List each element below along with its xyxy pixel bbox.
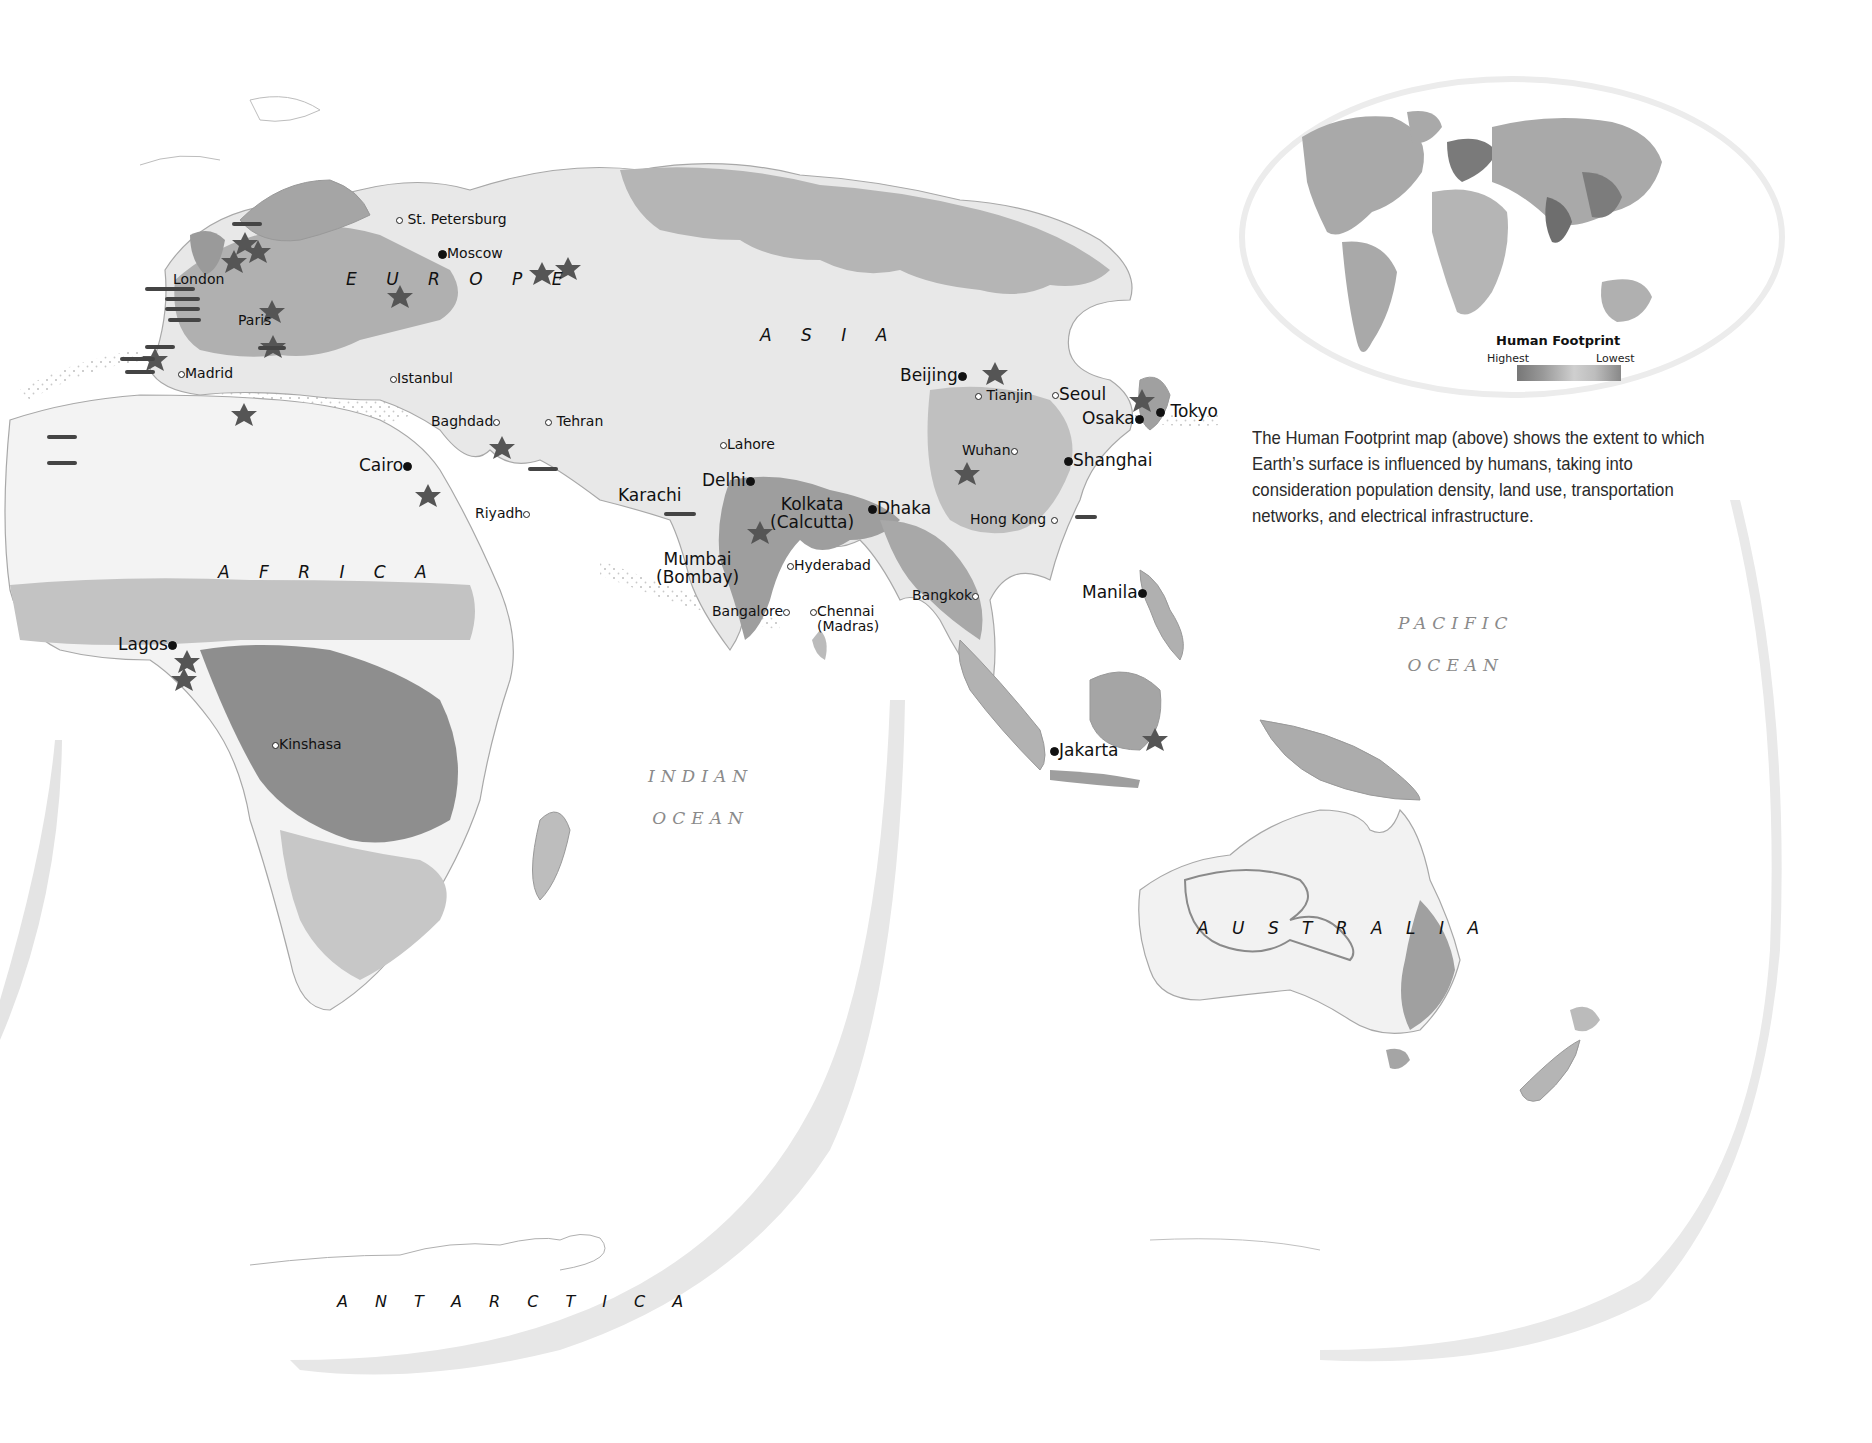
city-beijing[interactable]: Beijing [900, 367, 967, 385]
city-name: Hyderabad [794, 557, 871, 573]
madagascar [533, 812, 571, 900]
ocean-label-line1: INDIAN [648, 766, 753, 786]
city-marker-icon [168, 641, 177, 650]
city-osaka[interactable]: Osaka [1082, 410, 1144, 428]
city-name: Bangalore [712, 603, 783, 619]
continent-label-africa: A F R I C A [218, 562, 439, 582]
new-guinea [1260, 720, 1420, 800]
city-name: Baghdad [431, 413, 493, 429]
city-name: Shanghai [1073, 450, 1152, 470]
ship-icon [145, 287, 195, 291]
city-wuhan[interactable]: Wuhan [962, 443, 1018, 458]
city-marker-icon [1138, 589, 1147, 598]
city-st-petersburg[interactable]: St. Petersburg [396, 212, 507, 227]
city-name: Istanbul [397, 370, 453, 386]
city-marker-icon [787, 563, 794, 570]
sumatra [959, 640, 1045, 770]
city-lagos[interactable]: Lagos [118, 636, 177, 654]
city-name: Lahore [727, 436, 775, 452]
city-name: Kinshasa [279, 736, 342, 752]
city-kinshasa[interactable]: Kinshasa [272, 737, 342, 752]
city-baghdad[interactable]: Baghdad [431, 414, 500, 429]
city-name: Beijing [900, 365, 958, 385]
city-marker-icon [390, 376, 397, 383]
city-riyadh[interactable]: Riyadh [475, 506, 530, 521]
city-seoul[interactable]: Seoul [1052, 386, 1106, 404]
city-alt-name: (Madras) [817, 619, 879, 634]
city-shanghai[interactable]: Shanghai [1064, 452, 1152, 470]
ship-icon [258, 346, 286, 350]
city-istanbul[interactable]: Istanbul [390, 371, 453, 386]
city-name: Osaka [1082, 408, 1135, 428]
city-tokyo[interactable]: Tokyo [1156, 403, 1218, 421]
city-mumbai[interactable]: Mumbai(Bombay) [656, 551, 739, 587]
ocean-label-pacific: PACIFIC OCEAN [1398, 613, 1513, 675]
city-marker-icon [783, 609, 790, 616]
city-name: Cairo [359, 455, 403, 475]
new-zealand-south [1520, 1040, 1580, 1101]
city-alt-name: (Bombay) [656, 569, 739, 587]
city-jakarta[interactable]: Jakarta [1050, 742, 1118, 760]
lobe-edge-shadow-left [0, 740, 62, 1040]
ship-icon [120, 357, 155, 361]
city-marker-icon [493, 419, 500, 426]
city-name: Delhi [702, 470, 746, 490]
continent-label-australia: A U S T R A L I A [1197, 918, 1488, 938]
ship-icon [47, 461, 77, 465]
city-london[interactable]: London [173, 272, 224, 287]
city-name: Jakarta [1059, 740, 1118, 760]
city-name: Tehran [556, 413, 603, 429]
city-karachi[interactable]: Karachi [618, 487, 682, 505]
city-hong-kong[interactable]: Hong Kong [970, 512, 1058, 527]
city-bangalore[interactable]: Bangalore [712, 604, 790, 619]
city-lahore[interactable]: Lahore [720, 437, 775, 452]
city-name: Tokyo [1170, 401, 1218, 421]
city-name: Wuhan [962, 442, 1011, 458]
city-name: Karachi [618, 485, 682, 505]
city-marker-icon [403, 462, 412, 471]
city-marker-icon [1135, 415, 1144, 424]
ocean-label-indian: INDIAN OCEAN [648, 766, 753, 828]
city-marker-icon [972, 593, 979, 600]
city-name: Chennai [817, 604, 879, 619]
sri-lanka [812, 630, 827, 660]
city-cairo[interactable]: Cairo [359, 457, 412, 475]
city-hyderabad[interactable]: Hyderabad [787, 558, 871, 573]
city-marker-icon [1011, 448, 1018, 455]
city-bangkok[interactable]: Bangkok [912, 588, 979, 603]
tasmania [1386, 1049, 1410, 1069]
ship-icon [165, 307, 200, 311]
city-name: Paris [238, 312, 271, 328]
city-name: Hong Kong [970, 511, 1046, 527]
java [1050, 770, 1140, 788]
legend-label-highest: Highest [1487, 352, 1529, 365]
city-name: Riyadh [475, 505, 523, 521]
city-chennai[interactable]: Chennai(Madras) [810, 604, 879, 633]
city-kolkata[interactable]: Kolkata(Calcutta) [770, 496, 854, 532]
city-manila[interactable]: Manila [1082, 584, 1147, 602]
city-name: Lagos [118, 634, 168, 654]
city-marker-icon [545, 419, 552, 426]
city-name: Tianjin [986, 387, 1032, 403]
city-paris[interactable]: Paris [238, 313, 271, 328]
city-marker-icon [523, 511, 530, 518]
city-tehran[interactable]: Tehran [545, 414, 603, 429]
city-moscow[interactable]: Moscow [438, 246, 503, 261]
arctic-islands-2 [140, 156, 220, 165]
ship-icon [232, 222, 262, 226]
city-marker-icon [272, 742, 279, 749]
ship-icon [168, 318, 201, 322]
city-madrid[interactable]: Madrid [178, 366, 233, 381]
city-dhaka[interactable]: Dhaka [868, 500, 931, 518]
map-caption: The Human Footprint map (above) shows th… [1252, 425, 1710, 529]
city-name: Madrid [185, 365, 233, 381]
sahel-footprint [10, 578, 475, 645]
city-delhi[interactable]: Delhi [702, 472, 755, 490]
city-name: Bangkok [912, 587, 972, 603]
city-marker-icon [958, 372, 967, 381]
ship-icon [165, 297, 200, 301]
city-tianjin[interactable]: Tianjin [975, 388, 1033, 403]
city-marker-icon [1156, 408, 1165, 417]
new-zealand-north [1570, 1007, 1600, 1032]
ship-icon [528, 467, 558, 471]
